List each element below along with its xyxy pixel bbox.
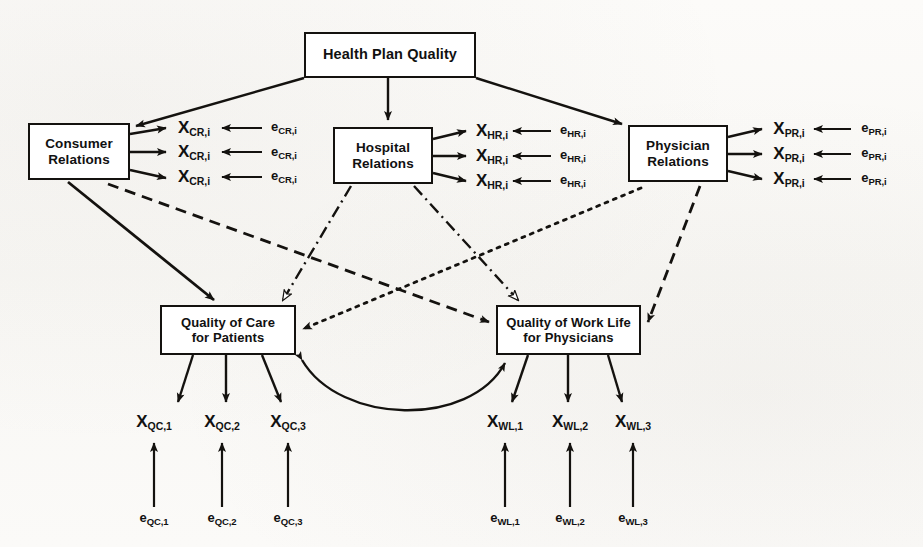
indicator-label-hr-3: XHR,i — [476, 172, 508, 191]
node-consumer-relations-label: Consumer Relations — [45, 136, 113, 168]
error-label-pr-3: ePR,i — [861, 169, 886, 186]
node-quality-of-care[interactable]: Quality of Care for Patients — [160, 305, 296, 355]
node-physician-relations[interactable]: Physician Relations — [628, 125, 728, 182]
edges-quality-of-work-life-indicators — [512, 355, 622, 402]
error-label-pr-1: ePR,i — [861, 119, 886, 136]
edges-hospital-relations-indicators — [433, 131, 466, 181]
error-label-qc-3: eQC,3 — [273, 509, 302, 526]
edge-hpq-to-physician-relations — [476, 78, 622, 124]
error-label-cr-1: eCR,i — [271, 118, 297, 135]
indicator-label-qc-1: XQC,1 — [136, 413, 171, 432]
node-quality-of-work-life-label: Quality of Work Life for Physicians — [506, 315, 631, 346]
indicator-label-qc-3: XQC,3 — [270, 413, 305, 432]
edges-physician-relations-indicators — [728, 129, 762, 179]
edges-quality-of-work-life-errors — [505, 443, 633, 507]
edges-quality-of-care-indicators — [178, 355, 281, 402]
indicator-label-hr-2: XHR,i — [476, 147, 508, 166]
indicator-label-wl-1: XWL,1 — [487, 413, 523, 432]
node-hospital-relations-label: Hospital Relations — [352, 140, 414, 172]
node-consumer-relations[interactable]: Consumer Relations — [28, 123, 130, 180]
error-label-pr-2: ePR,i — [861, 144, 886, 161]
error-label-qc-2: eQC,2 — [207, 509, 236, 526]
error-label-hr-3: eHR,i — [560, 171, 586, 188]
node-hospital-relations[interactable]: Hospital Relations — [333, 127, 433, 184]
indicator-label-wl-2: XWL,2 — [552, 413, 588, 432]
edge-hospital-to-quality-of-care — [283, 186, 351, 300]
error-label-qc-1: eQC,1 — [139, 509, 168, 526]
indicator-label-cr-3: XCR,i — [178, 168, 210, 187]
indicator-label-pr-3: XPR,i — [773, 170, 804, 189]
indicator-label-pr-2: XPR,i — [773, 145, 804, 164]
edge-consumer-to-quality-of-care — [68, 182, 214, 300]
path-edges-layer — [0, 0, 923, 547]
indicator-label-qc-2: XQC,2 — [204, 413, 239, 432]
error-label-wl-3: eWL,3 — [618, 509, 648, 526]
error-label-wl-2: eWL,2 — [555, 509, 585, 526]
sem-path-diagram: Health Plan Quality Consumer Relations H… — [0, 0, 923, 547]
indicator-label-pr-1: XPR,i — [773, 120, 804, 139]
edge-hospital-to-quality-of-work-life — [414, 186, 518, 300]
node-health-plan-quality[interactable]: Health Plan Quality — [304, 32, 476, 78]
edges-quality-of-care-errors — [154, 443, 288, 507]
error-label-cr-3: eCR,i — [271, 167, 297, 184]
indicator-label-hr-1: XHR,i — [476, 122, 508, 141]
node-physician-relations-label: Physician Relations — [646, 138, 710, 170]
node-health-plan-quality-label: Health Plan Quality — [323, 46, 457, 63]
indicator-label-wl-3: XWL,3 — [615, 413, 651, 432]
indicator-label-cr-1: XCR,i — [178, 119, 210, 138]
error-label-wl-1: eWL,1 — [490, 509, 520, 526]
edge-physician-to-quality-of-work-life — [648, 186, 700, 322]
error-label-hr-1: eHR,i — [560, 121, 586, 138]
node-quality-of-care-label: Quality of Care for Patients — [181, 315, 275, 346]
error-label-hr-2: eHR,i — [560, 146, 586, 163]
node-quality-of-work-life[interactable]: Quality of Work Life for Physicians — [496, 305, 641, 355]
edge-covariance-qc-qwl — [302, 360, 505, 410]
edges-consumer-relations-errors — [222, 128, 262, 177]
edges-physician-relations-errors — [814, 129, 851, 179]
indicator-label-cr-2: XCR,i — [178, 143, 210, 162]
edges-hospital-relations-errors — [513, 131, 551, 181]
edges-consumer-relations-indicators — [130, 128, 166, 178]
error-label-cr-2: eCR,i — [271, 143, 297, 160]
